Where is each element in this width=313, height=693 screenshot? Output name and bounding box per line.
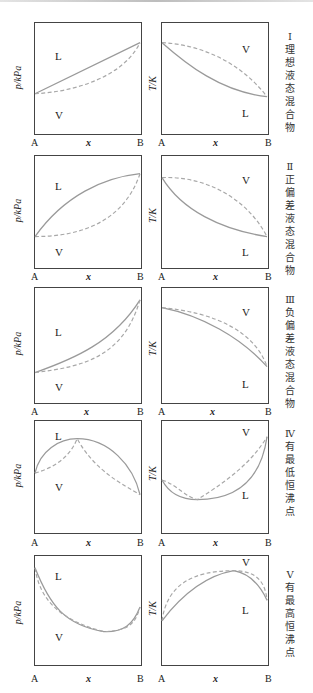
- region-liquid-label: L: [55, 326, 62, 338]
- curves: [35, 556, 141, 665]
- region-vapor-label: V: [55, 109, 63, 121]
- x-tick-b: B: [137, 673, 144, 684]
- region-vapor-label: V: [242, 43, 250, 55]
- x-axis-label: x: [86, 537, 91, 548]
- region-vapor-label: V: [55, 631, 63, 643]
- x-axis-label: x: [213, 537, 218, 548]
- x-tick-a: A: [158, 673, 165, 684]
- x-tick-a: A: [31, 537, 38, 548]
- roman-numeral: Ⅳ: [283, 427, 297, 440]
- liquid-line: [162, 571, 267, 621]
- chart-temperature-composition: V L: [161, 555, 269, 666]
- y-axis-label-temperature: T/K: [147, 208, 158, 223]
- region-liquid-label: L: [242, 378, 249, 390]
- region-liquid-label: L: [242, 246, 249, 258]
- curves: [35, 156, 141, 268]
- region-liquid-label: L: [55, 570, 62, 582]
- x-tick-a: A: [158, 137, 165, 148]
- x-tick-b: B: [137, 271, 144, 282]
- vapor-line: [162, 308, 267, 367]
- x-tick-a: A: [31, 137, 38, 148]
- x-tick-b: B: [137, 137, 144, 148]
- region-vapor-label: V: [55, 481, 63, 493]
- curves: [162, 556, 268, 665]
- y-axis-label-temperature: T/K: [147, 341, 158, 356]
- region-vapor-label: V: [55, 381, 63, 393]
- chart-temperature-composition: V L: [161, 420, 269, 534]
- y-axis-label-pressure: p/kPa: [12, 601, 23, 624]
- row-caption: Ⅱ 正偏差液态混合物: [283, 160, 297, 277]
- curves: [35, 23, 141, 134]
- caption-text: 负偏差液态混合物: [283, 306, 297, 410]
- x-axis-label: x: [210, 406, 215, 417]
- x-axis-label: x: [86, 673, 91, 684]
- x-tick-b: B: [265, 271, 272, 282]
- y-axis-label-pressure: p/kPa: [12, 199, 23, 222]
- x-axis-label: x: [86, 137, 91, 148]
- x-tick-b: B: [265, 537, 272, 548]
- liquid-line: [35, 43, 140, 94]
- region-vapor-label: V: [242, 556, 250, 568]
- y-axis-label-temperature: T/K: [147, 76, 158, 91]
- row-caption: Ⅲ 负偏差液态混合物: [283, 293, 297, 410]
- x-tick-b: B: [265, 406, 272, 417]
- chart-pressure-composition: L V: [34, 420, 142, 534]
- x-tick-b: B: [265, 673, 272, 684]
- curves: [162, 421, 268, 533]
- region-liquid-label: L: [242, 107, 249, 119]
- chart-temperature-composition: V L: [161, 287, 269, 404]
- caption-text: 有最低恒沸点: [283, 440, 297, 518]
- vapor-line: [35, 300, 140, 373]
- row-caption: Ⅳ 有最低恒沸点: [283, 427, 297, 518]
- x-axis-label: x: [213, 271, 218, 282]
- x-axis-label: x: [84, 406, 89, 417]
- curves: [162, 156, 268, 268]
- x-tick-a: A: [158, 537, 165, 548]
- vapor-line: [35, 174, 140, 237]
- x-tick-a: A: [158, 271, 165, 282]
- caption-text: 有最高恒沸点: [283, 581, 297, 659]
- chart-pressure-composition: L V: [34, 22, 142, 135]
- region-liquid-label: L: [55, 180, 62, 192]
- chart-pressure-composition: L V: [34, 287, 142, 404]
- curves: [162, 23, 268, 134]
- x-axis-label: x: [86, 271, 91, 282]
- vapor-line: [162, 43, 267, 97]
- x-tick-a: A: [158, 406, 165, 417]
- region-liquid-label: L: [242, 489, 249, 501]
- x-tick-a: A: [31, 406, 38, 417]
- y-axis-label-temperature: T/K: [147, 466, 158, 481]
- vapor-line: [162, 437, 267, 500]
- y-axis-label-temperature: T/K: [147, 601, 158, 616]
- liquid-line: [35, 568, 140, 632]
- x-tick-b: B: [265, 137, 272, 148]
- liquid-line: [35, 174, 140, 237]
- row-caption: Ⅰ 理想液态混合物: [283, 30, 297, 134]
- region-liquid-label: L: [55, 50, 62, 62]
- chart-temperature-composition: V L: [161, 22, 269, 135]
- caption-text: 理想液态混合物: [283, 43, 297, 134]
- liquid-line: [162, 43, 267, 97]
- region-liquid-label: L: [55, 430, 62, 442]
- x-tick-a: A: [31, 673, 38, 684]
- x-tick-b: B: [137, 406, 144, 417]
- row-caption: Ⅴ 有最高恒沸点: [283, 568, 297, 659]
- liquid-line: [35, 439, 140, 495]
- y-axis-label-pressure: p/kPa: [12, 66, 23, 89]
- region-vapor-label: V: [55, 246, 63, 258]
- vapor-line: [162, 177, 267, 236]
- x-tick-a: A: [31, 271, 38, 282]
- roman-numeral: Ⅰ: [283, 30, 297, 43]
- curves: [162, 288, 268, 403]
- chart-pressure-composition: L V: [34, 555, 142, 666]
- liquid-line: [162, 437, 267, 500]
- liquid-line: [162, 178, 267, 237]
- liquid-line: [162, 308, 267, 367]
- chart-temperature-composition: V L: [161, 155, 269, 269]
- top-edge-bar: [0, 0, 313, 2]
- roman-numeral: Ⅲ: [283, 293, 297, 306]
- x-axis-label: x: [213, 137, 218, 148]
- x-axis-label: x: [213, 673, 218, 684]
- caption-text: 正偏差液态混合物: [283, 173, 297, 277]
- roman-numeral: Ⅱ: [283, 160, 297, 173]
